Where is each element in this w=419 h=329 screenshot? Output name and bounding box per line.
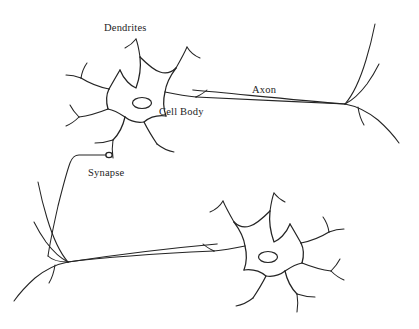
neuron-diagram-canvas (0, 0, 419, 329)
label-axon: Axon (252, 84, 276, 95)
upper-neuron-soma (79, 57, 196, 144)
lower-neuron-nucleus (259, 252, 278, 263)
lower-neuron-axon (68, 244, 217, 262)
upper-neuron-nucleus (133, 98, 152, 109)
label-synapse: Synapse (88, 167, 124, 178)
label-dendrites: Dendrites (104, 22, 147, 33)
neuron-diagram: Dendrites Cell Body Axon Synapse (0, 0, 419, 329)
upper-neuron-axon-terminals (345, 24, 399, 143)
label-cell-body: Cell Body (159, 106, 204, 117)
lower-neuron-soma (214, 211, 331, 298)
synapse-bulb (106, 152, 112, 157)
lower-neuron (14, 182, 344, 312)
upper-neuron (66, 24, 399, 158)
